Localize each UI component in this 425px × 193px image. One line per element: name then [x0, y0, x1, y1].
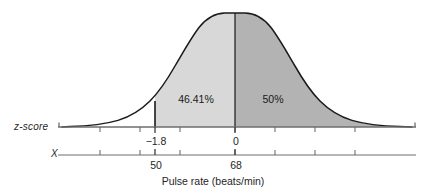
x-axis-label: X — [51, 149, 58, 159]
x-axis-ticks — [100, 150, 355, 155]
z-axis-ticks — [100, 127, 355, 132]
region-fill-50 — [62, 13, 412, 127]
normal-distribution-figure: z-score X −1.8 0 50 68 46.41% 50% Pulse … — [0, 0, 425, 193]
z-tick-label-0: 0 — [233, 136, 239, 147]
x-tick-label-50: 50 — [150, 160, 162, 171]
z-axis-label-ticks — [155, 127, 235, 133]
z-axis-label: z-score — [14, 122, 48, 132]
region-label-46-41: 46.41% — [178, 94, 214, 105]
region-label-50: 50% — [262, 94, 283, 105]
x-axis-label-ticks — [155, 149, 235, 155]
z-tick-label-minus-1-8: −1.8 — [146, 136, 167, 147]
x-axis-caption: Pulse rate (beats/min) — [162, 176, 265, 187]
x-tick-label-68: 68 — [230, 160, 242, 171]
